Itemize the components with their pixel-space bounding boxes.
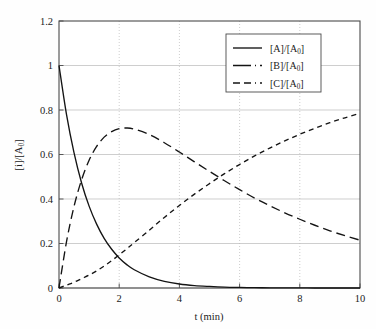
x-axis-title: t (min): [195, 311, 224, 323]
y-axis-title: [i]/[A0]: [13, 139, 26, 170]
y-tick-label: 0.2: [40, 238, 53, 249]
x-tick-label: 8: [297, 293, 302, 304]
y-tick-label: 0: [48, 283, 53, 294]
y-tick-label: 0.8: [40, 105, 53, 116]
chart-figure: 0 0.2 0.4 0.6 0.8 1 1.2 0 2 4 6 8 10 t (…: [0, 0, 376, 329]
y-tick-label: 1.2: [40, 16, 53, 27]
x-tick-label: 2: [117, 293, 122, 304]
y-tick-label: 0.6: [40, 149, 53, 160]
x-tick-label: 0: [56, 293, 61, 304]
x-tick-label: 10: [355, 293, 366, 304]
kinetics-line-chart: 0 0.2 0.4 0.6 0.8 1 1.2 0 2 4 6 8 10 t (…: [0, 0, 376, 329]
y-tick-labels: 0 0.2 0.4 0.6 0.8 1 1.2: [40, 16, 54, 294]
x-tick-label: 6: [237, 293, 242, 304]
y-tick-label: 0.4: [40, 194, 54, 205]
x-tick-label: 4: [177, 293, 183, 304]
legend: [A]/[A0] [B]/[A0] [C]/[A0]: [226, 34, 321, 92]
y-axis-title-tail: ]: [13, 139, 24, 143]
svg-text:[i]/[A0]: [i]/[A0]: [13, 139, 26, 170]
y-tick-label: 1: [48, 60, 53, 71]
x-tick-labels: 0 2 4 6 8 10: [56, 293, 365, 304]
y-axis-title-main: [i]/[A: [13, 146, 24, 170]
